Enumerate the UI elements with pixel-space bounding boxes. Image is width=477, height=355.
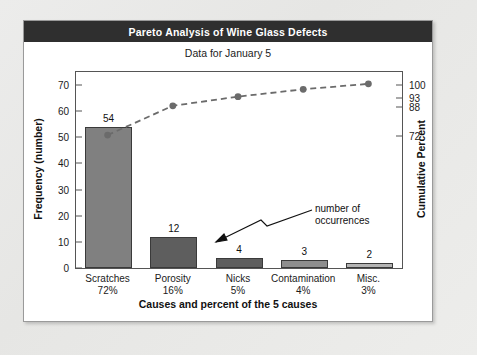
y-tick-mark (76, 268, 82, 269)
y-tick-mark (76, 241, 82, 242)
annotation-text: number of occurrences (315, 203, 369, 227)
bar-value-label: 12 (168, 223, 179, 234)
bar-porosity (150, 237, 197, 268)
bar-value-label: 3 (301, 246, 307, 257)
y-tick-mark (76, 111, 82, 112)
bar-misc (346, 263, 393, 268)
bar-value-label: 54 (103, 113, 114, 124)
x-category-label: Porosity16% (155, 273, 191, 297)
y-axis-title: Frequency (number) (31, 71, 45, 267)
chart-title-bar: Pareto Analysis of Wine Glass Defects (24, 21, 432, 42)
x-category-label: Nicks5% (226, 273, 250, 297)
plot-area: 0102030405060707288931005412432 (75, 71, 403, 269)
category-percent: 5% (226, 285, 250, 297)
bar-value-label: 2 (367, 249, 373, 260)
screenshot-page: Pareto Analysis of Wine Glass Defects Da… (0, 0, 477, 355)
bar-value-label: 4 (236, 244, 242, 255)
category-percent: 3% (357, 285, 380, 297)
y-tick-label: 10 (58, 236, 76, 247)
y2-tick-label: 72 (402, 131, 420, 142)
y-tick-label: 40 (58, 158, 76, 169)
chart-card: Pareto Analysis of Wine Glass Defects Da… (23, 20, 433, 322)
y-tick-label: 60 (58, 106, 76, 117)
x-axis-title: Causes and percent of the 5 causes (24, 298, 432, 310)
category-name: Nicks (226, 273, 250, 285)
x-category-label: Scratches72% (85, 273, 129, 297)
y-tick-mark (76, 137, 82, 138)
y-tick-mark (76, 163, 82, 164)
y-tick-mark (76, 215, 82, 216)
y-tick-label: 20 (58, 210, 76, 221)
y-tick-mark (76, 189, 82, 190)
x-category-label: Misc.3% (357, 273, 380, 297)
page-title: Pareto Analysis of Wine Glass Defects (129, 26, 328, 38)
y-tick-label: 70 (58, 80, 76, 91)
category-name: Contamination (271, 273, 335, 285)
y-tick-label: 50 (58, 132, 76, 143)
bar-nicks (216, 258, 263, 268)
y2-tick-label: 100 (402, 79, 426, 90)
category-percent: 4% (271, 285, 335, 297)
bar-contamination (281, 260, 328, 268)
y2-tick-label: 93 (402, 92, 420, 103)
category-name: Misc. (357, 273, 380, 285)
y-tick-mark (76, 85, 82, 86)
category-name: Porosity (155, 273, 191, 285)
category-name: Scratches (85, 273, 129, 285)
bar-scratches (85, 127, 132, 268)
category-percent: 72% (85, 285, 129, 297)
x-category-label: Contamination4% (271, 273, 335, 297)
y-tick-label: 0 (63, 263, 76, 274)
chart-subtitle: Data for January 5 (24, 47, 432, 59)
y-tick-label: 30 (58, 184, 76, 195)
category-percent: 16% (155, 285, 191, 297)
